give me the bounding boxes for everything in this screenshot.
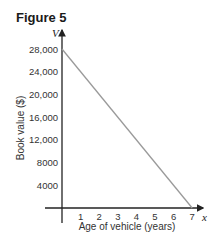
data-line: [62, 49, 192, 208]
y-tick-label: 16,000: [29, 112, 58, 123]
y-tick-label: 12,000: [29, 134, 58, 145]
axes: [45, 30, 203, 223]
y-axis-label: Book value ($): [15, 96, 26, 160]
y-tick-label: 4000: [37, 180, 58, 191]
y-axis-variable: V: [52, 27, 60, 39]
x-axis-variable: x: [201, 211, 207, 223]
y-tick-label: 24,000: [29, 66, 58, 77]
y-tick-label: 20,000: [29, 89, 58, 100]
y-tick-label: 28,000: [29, 44, 58, 55]
series-line: [62, 49, 192, 208]
y-tick-label: 8000: [37, 157, 58, 168]
x-axis-label: Age of vehicle (years): [79, 221, 176, 232]
x-tick-label: 7: [190, 211, 195, 222]
chart: 12345674000800012,00016,00020,00024,0002…: [0, 0, 214, 248]
tick-labels: 12345674000800012,00016,00020,00024,0002…: [29, 44, 195, 223]
